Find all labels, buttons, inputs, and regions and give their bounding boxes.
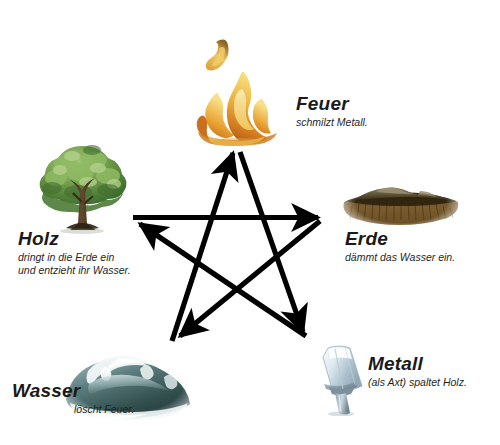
earth-mound-icon [338,178,464,230]
axe-head-icon [308,340,372,416]
element-desc-metall: (als Axt) spaltet Holz. [368,376,467,389]
label-feuer: Feuer schmilzt Metall. [296,94,368,129]
element-desc-holz-line2: und entzieht ihr Wasser. [18,264,131,277]
label-metall: Metall (als Axt) spaltet Holz. [368,354,467,389]
element-title-erde: Erde [345,229,455,249]
element-title-holz: Holz [18,229,131,249]
arrow-feuer-to-metall [240,152,303,332]
element-desc-erde: dämmt das Wasser ein. [345,251,455,264]
element-title-wasser: Wasser [12,381,134,401]
label-wasser: Wasser löscht Feuer. [12,381,134,416]
label-holz: Holz dringt in die Erde ein und entzieht… [18,229,131,277]
label-erde: Erde dämmt das Wasser ein. [345,229,455,264]
element-title-feuer: Feuer [296,94,368,114]
arrow-metall-to-holz [140,224,306,336]
element-desc-wasser: löscht Feuer. [74,403,134,416]
tree-icon [32,142,136,236]
five-elements-diagram: Feuer schmilzt Metall. Erde dämmt das Wa… [0,0,500,445]
element-desc-feuer: schmilzt Metall. [296,116,368,129]
arrow-wasser-to-feuer [172,153,233,341]
element-title-metall: Metall [368,354,467,374]
element-desc-holz-line1: dringt in die Erde ein [18,251,131,264]
flame-icon [186,24,290,146]
arrow-erde-to-wasser [180,221,320,336]
